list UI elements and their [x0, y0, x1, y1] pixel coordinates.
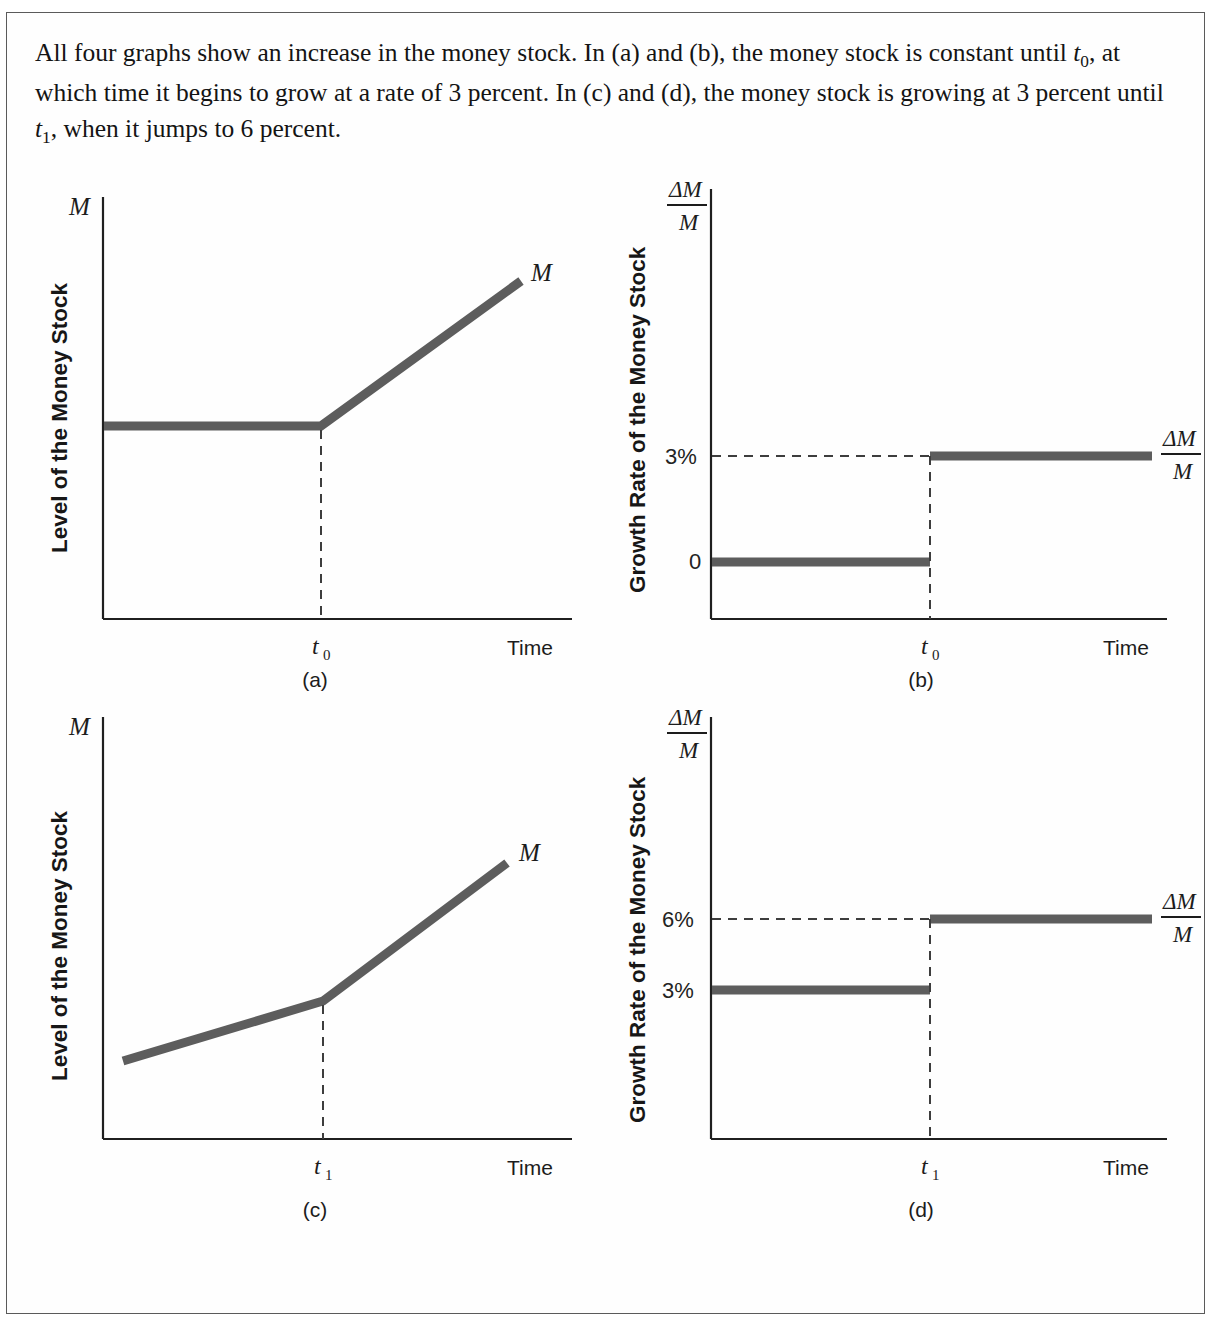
panel-b-curve-label-numerator: ΔM: [1162, 426, 1197, 451]
panel-a-y-axis-title: Level of the Money Stock: [47, 282, 72, 553]
panel-b-y-axis-title: Growth Rate of the Money Stock: [625, 246, 650, 593]
panel-label-b: (b): [891, 668, 951, 692]
panel-b-curve-label-denominator: M: [1172, 459, 1194, 484]
panel-c-money-stock-line: [123, 863, 507, 1061]
panel-b-event-subscript: 0: [932, 647, 940, 663]
panel-label-d: (d): [891, 1198, 951, 1222]
caption-line-3-suffix: , when it jumps to 6 percent.: [51, 114, 341, 143]
panel-a-x-axis-title: Time: [507, 636, 553, 659]
panel-a-curve-label: M: [530, 259, 553, 286]
caption-line-1: All four graphs show an increase in the …: [35, 38, 1014, 67]
panel-d-tick-label-3pct: 3%: [662, 978, 694, 1003]
caption-line-2-prefix: until: [1020, 38, 1073, 67]
chart-panel-c: M Level of the Money Stock M t 1 Time: [27, 693, 607, 1203]
panel-b-y-axis-symbol-numerator: ΔM: [668, 177, 703, 202]
panel-a-money-stock-line: [104, 281, 521, 426]
panel-b-event-label: t: [921, 633, 929, 659]
chart-panel-b: ΔM M Growth Rate of the Money Stock 3% 0…: [607, 163, 1207, 663]
panel-c-y-axis-symbol: M: [68, 713, 91, 740]
panel-d-y-axis-symbol-denominator: M: [678, 738, 700, 763]
figure-caption: All four graphs show an increase in the …: [35, 35, 1165, 151]
panel-b-x-axis-title: Time: [1103, 636, 1149, 659]
caption-t1-subscript: 1: [42, 128, 51, 147]
panel-label-c: (c): [285, 1198, 345, 1222]
panel-d-tick-label-6pct: 6%: [662, 907, 694, 932]
panel-d-x-axis-title: Time: [1103, 1156, 1149, 1179]
panel-d-event-subscript: 1: [932, 1167, 940, 1183]
panel-d-curve-label-numerator: ΔM: [1162, 889, 1197, 914]
panel-a-event-subscript: 0: [323, 647, 331, 663]
panel-d-event-label: t: [921, 1153, 929, 1179]
figure-frame: All four graphs show an increase in the …: [6, 12, 1205, 1314]
panel-b-tick-label-0: 0: [689, 549, 701, 574]
panel-a-event-label: t: [312, 633, 320, 659]
chart-panel-a: M Level of the Money Stock M t 0 Time: [27, 163, 607, 663]
panel-b-y-axis-symbol-denominator: M: [678, 210, 700, 235]
panel-c-y-axis-title: Level of the Money Stock: [47, 810, 72, 1081]
panel-c-curve-label: M: [518, 839, 541, 866]
panel-c-event-subscript: 1: [325, 1167, 333, 1183]
panel-d-y-axis-title: Growth Rate of the Money Stock: [625, 776, 650, 1123]
panel-b-tick-label-3pct: 3%: [665, 444, 697, 469]
panel-c-x-axis-title: Time: [507, 1156, 553, 1179]
panel-label-a: (a): [285, 668, 345, 692]
panel-c-event-label: t: [314, 1153, 322, 1179]
panel-d-curve-label-denominator: M: [1172, 922, 1194, 947]
panel-a-y-axis-symbol: M: [68, 193, 91, 220]
caption-t0-subscript: 0: [1080, 52, 1089, 71]
panel-d-y-axis-symbol-numerator: ΔM: [668, 705, 703, 730]
caption-line-3-prefix: growing at 3 percent until: [900, 78, 1163, 107]
chart-panel-d: ΔM M Growth Rate of the Money Stock 6% 3…: [607, 693, 1207, 1203]
